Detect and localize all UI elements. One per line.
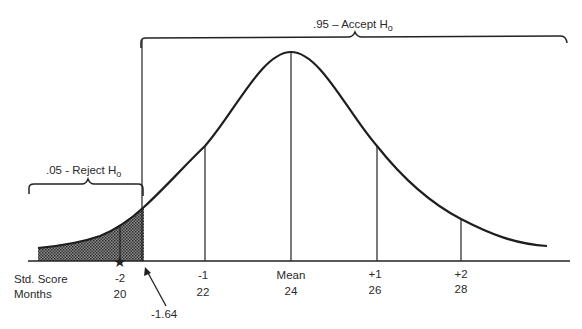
- reject-bracket: [29, 179, 143, 196]
- tick-std-minus-1: -1: [198, 269, 208, 281]
- tick-months-20: 20: [114, 288, 127, 300]
- reject-label: .05 - Reject Ho: [46, 164, 121, 179]
- critical-value-arrow: [147, 271, 166, 306]
- critical-value-label: -1.64: [151, 308, 178, 320]
- tick-std-plus-2: +2: [454, 268, 467, 280]
- accept-bracket: [141, 32, 567, 48]
- tick-months-24: 24: [285, 285, 298, 297]
- tick-std-plus-1: +1: [368, 268, 381, 280]
- normal-distribution-figure: ★ .95 – Accept Ho .05 - Reject Ho -1.64 …: [0, 0, 582, 329]
- row-label-months: Months: [14, 288, 52, 300]
- normal-curve: [38, 52, 547, 248]
- star-marker-icon: ★: [113, 253, 126, 270]
- row-label-std-score: Std. Score: [14, 273, 68, 285]
- arrowhead-icon: [144, 267, 151, 276]
- accept-label: .95 – Accept Ho: [313, 18, 393, 33]
- tick-months-26: 26: [369, 284, 382, 296]
- rejection-region-shade: [38, 207, 144, 261]
- tick-std-minus-2: -2: [115, 272, 125, 284]
- tick-months-22: 22: [197, 286, 210, 298]
- tick-std-mean: Mean: [277, 269, 306, 281]
- tick-months-28: 28: [455, 283, 468, 295]
